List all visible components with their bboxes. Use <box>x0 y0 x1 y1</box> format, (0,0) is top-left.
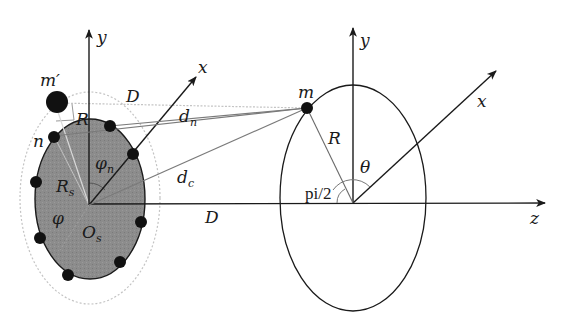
label-pi-half: pi/2 <box>305 184 331 203</box>
label-dn: dn <box>179 106 197 129</box>
peripheral-point <box>127 148 139 160</box>
label-right-y: y <box>359 30 370 50</box>
peripheral-point <box>30 176 42 188</box>
right-x-axis <box>353 71 496 203</box>
point-m <box>301 102 313 114</box>
figure-canvas: y x m′ D R n φn Rs φ Os dn dc D m R θ pi… <box>0 0 561 331</box>
label-theta: θ <box>360 157 370 177</box>
label-phi: φ <box>52 208 64 228</box>
z-axis <box>89 203 545 204</box>
point-mprime <box>46 91 68 113</box>
peripheral-point <box>34 232 46 244</box>
diagram-svg: y x m′ D R n φn Rs φ Os dn dc D m R θ pi… <box>0 0 561 331</box>
label-right-x: x <box>477 91 487 111</box>
line-dn-2 <box>110 108 307 126</box>
label-dc: dc <box>177 167 194 190</box>
peripheral-point <box>135 216 147 228</box>
label-n: n <box>33 131 44 151</box>
source-ellipse-filled <box>35 119 145 279</box>
label-D-top: D <box>125 86 140 106</box>
label-left-y: y <box>96 27 107 47</box>
label-left-x: x <box>198 57 208 77</box>
arc-pi-half <box>337 189 345 203</box>
label-R-offset: R <box>75 109 89 129</box>
peripheral-point <box>114 256 126 268</box>
label-m: m <box>298 82 314 102</box>
label-R-right: R <box>327 128 341 148</box>
peripheral-point <box>62 269 74 281</box>
label-D-bottom: D <box>204 207 219 227</box>
peripheral-point <box>104 120 116 132</box>
label-z: z <box>529 208 540 228</box>
point-n <box>48 131 60 143</box>
arc-theta <box>333 180 370 190</box>
label-mprime: m′ <box>40 70 60 90</box>
